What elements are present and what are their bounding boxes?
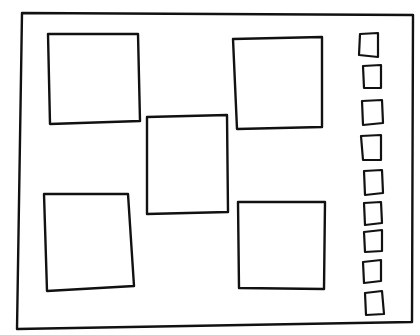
thumbnail-8: [363, 260, 381, 283]
thumbnail-7: [364, 230, 382, 252]
outer-frame: [17, 13, 413, 329]
content-box-center: [147, 115, 228, 214]
thumbnail-2: [363, 65, 381, 88]
thumbnail-4: [361, 135, 381, 160]
content-box-bottom-right: [238, 202, 325, 289]
thumbnail-5: [364, 170, 383, 195]
wireframe-sketch: [0, 0, 420, 335]
content-box-bottom-left: [44, 194, 134, 291]
thumbnail-9: [365, 291, 384, 315]
thumbnail-3: [362, 100, 383, 125]
thumbnail-1: [359, 33, 378, 57]
content-box-top-left: [48, 34, 140, 124]
content-box-top-right: [233, 37, 322, 129]
thumbnail-strip: [359, 33, 384, 315]
thumbnail-6: [364, 202, 382, 225]
